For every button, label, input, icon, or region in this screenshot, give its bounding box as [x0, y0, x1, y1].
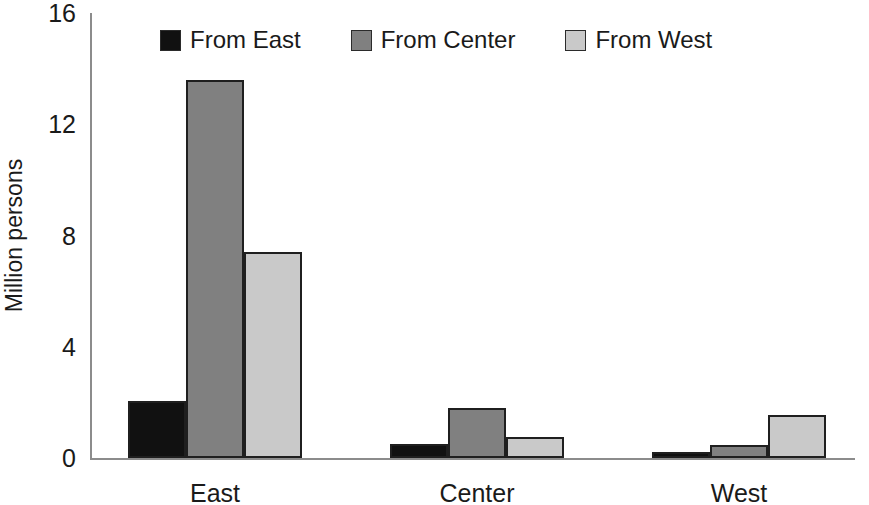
bar-center-from-west: [506, 437, 564, 458]
x-tick-label-east: East: [190, 481, 240, 505]
bar-east-from-west: [244, 252, 302, 458]
y-tick-label: 0: [62, 446, 76, 471]
bar-west-from-west: [768, 415, 826, 458]
x-tick-label-west: West: [711, 481, 768, 505]
y-tick-label: 4: [62, 334, 76, 359]
y-tick-label: 12: [48, 112, 76, 137]
x-axis-line: [90, 458, 855, 460]
bar-east-from-east: [128, 401, 186, 458]
x-tick-label-center: Center: [439, 481, 514, 505]
bar-west-from-east: [652, 452, 710, 458]
bar-east-from-center: [186, 80, 244, 458]
bar-center-from-east: [390, 444, 448, 458]
bar-center-from-center: [448, 408, 506, 458]
y-axis-title-text: Million persons: [4, 158, 27, 311]
y-axis-title: Million persons: [0, 0, 30, 470]
bar-west-from-center: [710, 445, 768, 458]
y-tick-label: 8: [62, 223, 76, 248]
y-tick-label: 16: [48, 1, 76, 26]
y-axis-line: [90, 13, 92, 458]
bar-chart: From East From Center From West Million …: [0, 0, 869, 505]
plot-area: 0481216 EastCenterWest: [90, 13, 855, 458]
